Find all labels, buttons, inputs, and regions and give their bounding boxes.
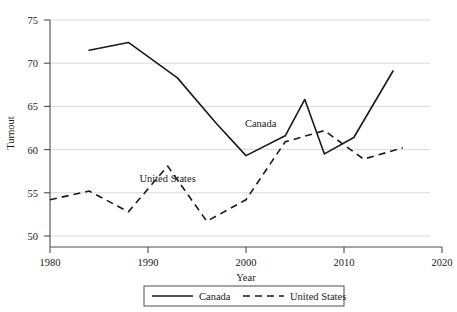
- x-tick-label-1990: 1990: [138, 257, 159, 268]
- legend: Canada United States: [144, 286, 346, 306]
- x-tick-label-1980: 1980: [40, 257, 61, 268]
- x-tick-label-2000: 2000: [236, 257, 257, 268]
- x-tick-label-2010: 2010: [334, 257, 355, 268]
- chart-svg: 75 70 65 60 55 50 1980 1990 2000 2010 20…: [0, 0, 457, 312]
- y-tick-label-70: 70: [28, 58, 39, 69]
- legend-label-united-states: United States: [290, 291, 346, 302]
- y-tick-label-50: 50: [28, 231, 39, 242]
- series-annotation-united-states: United States: [139, 173, 195, 184]
- chart-background: [0, 0, 457, 312]
- y-tick-label-65: 65: [28, 101, 39, 112]
- series-annotation-canada: Canada: [245, 118, 277, 129]
- turnout-line-chart: 75 70 65 60 55 50 1980 1990 2000 2010 20…: [0, 0, 457, 312]
- y-tick-label-55: 55: [28, 188, 39, 199]
- x-tick-label-2020: 2020: [432, 257, 453, 268]
- x-axis-title: Year: [236, 272, 256, 283]
- y-axis-title: Turnout: [5, 116, 16, 150]
- y-tick-label-60: 60: [28, 145, 39, 156]
- legend-label-canada: Canada: [199, 291, 231, 302]
- y-tick-label-75: 75: [28, 15, 39, 26]
